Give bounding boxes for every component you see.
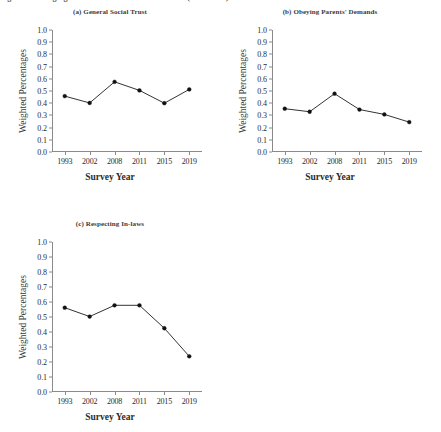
y-axis-tick-label: 0.0 — [257, 148, 267, 157]
x-axis-tick — [115, 152, 116, 155]
y-axis-tick-label: 1.0 — [37, 26, 47, 35]
series-line — [65, 82, 190, 103]
figure-caption: Figure 1. Changing Social Norms in Mainl… — [0, 0, 441, 2]
x-axis-label: Survey Year — [0, 412, 220, 422]
x-axis-tick — [139, 392, 140, 395]
x-axis-tick-label: 2002 — [302, 157, 317, 166]
y-axis-tick-label: 0.5 — [257, 87, 267, 96]
x-axis-tick — [189, 152, 190, 155]
x-axis-tick-label: 2008 — [107, 397, 122, 406]
x-axis-tick-label: 2019 — [402, 157, 417, 166]
data-point — [63, 306, 67, 310]
y-axis-tick-label: 0.2 — [37, 123, 47, 132]
y-axis-tick-label: 0.5 — [37, 87, 47, 96]
data-point — [138, 303, 142, 307]
x-axis-tick — [189, 392, 190, 395]
y-axis-tick-label: 0.9 — [257, 38, 267, 47]
y-axis-tick-label: 0.2 — [37, 358, 47, 367]
data-point — [113, 80, 117, 84]
x-axis-tick-label: 2019 — [182, 157, 197, 166]
x-axis-tick-label: 2002 — [82, 157, 97, 166]
panel-title: (a) General Social Trust — [0, 8, 220, 16]
x-axis-tick — [90, 392, 91, 395]
x-axis-tick-label: 2011 — [132, 157, 147, 166]
data-point — [162, 101, 166, 105]
panel-respecting-in-laws: (c) Respecting In-lawsWeighted Percentag… — [0, 220, 220, 430]
x-axis-tick-label: 1993 — [277, 157, 292, 166]
data-point — [308, 110, 312, 114]
x-axis-tick — [310, 152, 311, 155]
y-axis-label: Weighted Percentages — [238, 30, 248, 152]
x-axis-tick-label: 1993 — [57, 397, 72, 406]
x-axis-tick — [285, 152, 286, 155]
x-axis-tick — [65, 152, 66, 155]
y-axis-tick-label: 0.5 — [37, 313, 47, 322]
y-axis-tick-label: 0.1 — [37, 373, 47, 382]
data-point — [358, 108, 362, 112]
panel-title: (b) Obeying Parents' Demands — [220, 8, 440, 16]
x-axis-label: Survey Year — [220, 172, 440, 182]
y-axis-tick-label: 0.8 — [37, 268, 47, 277]
data-series — [52, 30, 202, 152]
data-point — [187, 88, 191, 92]
x-axis-tick-label: 2002 — [82, 397, 97, 406]
x-axis-tick — [164, 392, 165, 395]
x-axis-tick-label: 2008 — [327, 157, 342, 166]
data-point — [162, 326, 166, 330]
data-point — [63, 94, 67, 98]
y-axis-tick-label: 0.7 — [37, 283, 47, 292]
y-axis-tick-label: 0.2 — [257, 123, 267, 132]
y-axis-label: Weighted Percentages — [18, 30, 28, 152]
x-axis-tick — [384, 152, 385, 155]
x-axis-tick-label: 2008 — [107, 157, 122, 166]
panel-title: (c) Respecting In-laws — [0, 220, 220, 228]
data-series — [272, 30, 422, 152]
y-axis-tick-label: 0.8 — [257, 50, 267, 59]
data-point — [138, 88, 142, 92]
x-axis-tick-label: 2015 — [157, 397, 172, 406]
y-axis-tick-label: 0.6 — [37, 74, 47, 83]
x-axis-tick-label: 1993 — [57, 157, 72, 166]
y-axis-tick-label: 0.4 — [37, 99, 47, 108]
y-axis-tick-label: 0.7 — [37, 62, 47, 71]
series-line — [65, 305, 190, 356]
y-axis-tick-label: 0.0 — [37, 148, 47, 157]
data-series — [52, 242, 202, 392]
series-line — [285, 94, 410, 122]
x-axis-tick-label: 2015 — [377, 157, 392, 166]
y-axis-tick-label: 1.0 — [37, 238, 47, 247]
data-point — [382, 113, 386, 117]
y-axis-tick-label: 0.3 — [257, 111, 267, 120]
y-axis-tick-label: 0.9 — [37, 38, 47, 47]
x-axis-tick — [335, 152, 336, 155]
data-point — [283, 107, 287, 111]
y-axis-tick-label: 0.7 — [257, 62, 267, 71]
x-axis-tick — [139, 152, 140, 155]
y-axis-tick-label: 0.4 — [37, 328, 47, 337]
x-axis-tick-label: 2011 — [352, 157, 367, 166]
x-axis-tick-label: 2011 — [132, 397, 147, 406]
x-axis-tick — [409, 152, 410, 155]
data-point — [333, 92, 337, 96]
x-axis-tick — [359, 152, 360, 155]
x-axis-tick-label: 2019 — [182, 397, 197, 406]
y-axis-tick-label: 0.1 — [37, 135, 47, 144]
y-axis-tick-label: 0.0 — [37, 388, 47, 397]
data-point — [407, 120, 411, 124]
panel-obeying-parents-demands: (b) Obeying Parents' DemandsWeighted Per… — [220, 8, 440, 208]
x-axis-tick-label: 2015 — [157, 157, 172, 166]
y-axis-tick-label: 0.1 — [257, 135, 267, 144]
y-axis-label: Weighted Percentages — [18, 242, 28, 392]
y-axis-tick-label: 0.3 — [37, 111, 47, 120]
y-axis-tick-label: 0.4 — [257, 99, 267, 108]
x-axis-tick — [164, 152, 165, 155]
x-axis-tick — [115, 392, 116, 395]
y-axis-tick-label: 0.6 — [37, 298, 47, 307]
x-axis-tick — [65, 392, 66, 395]
plot-area: 0.00.10.20.30.40.50.60.70.80.91.01993200… — [52, 242, 202, 392]
y-axis-tick-label: 0.6 — [257, 74, 267, 83]
data-point — [88, 315, 92, 319]
y-axis-tick-label: 0.3 — [37, 343, 47, 352]
y-axis-tick-label: 1.0 — [257, 26, 267, 35]
x-axis-label: Survey Year — [0, 172, 220, 182]
